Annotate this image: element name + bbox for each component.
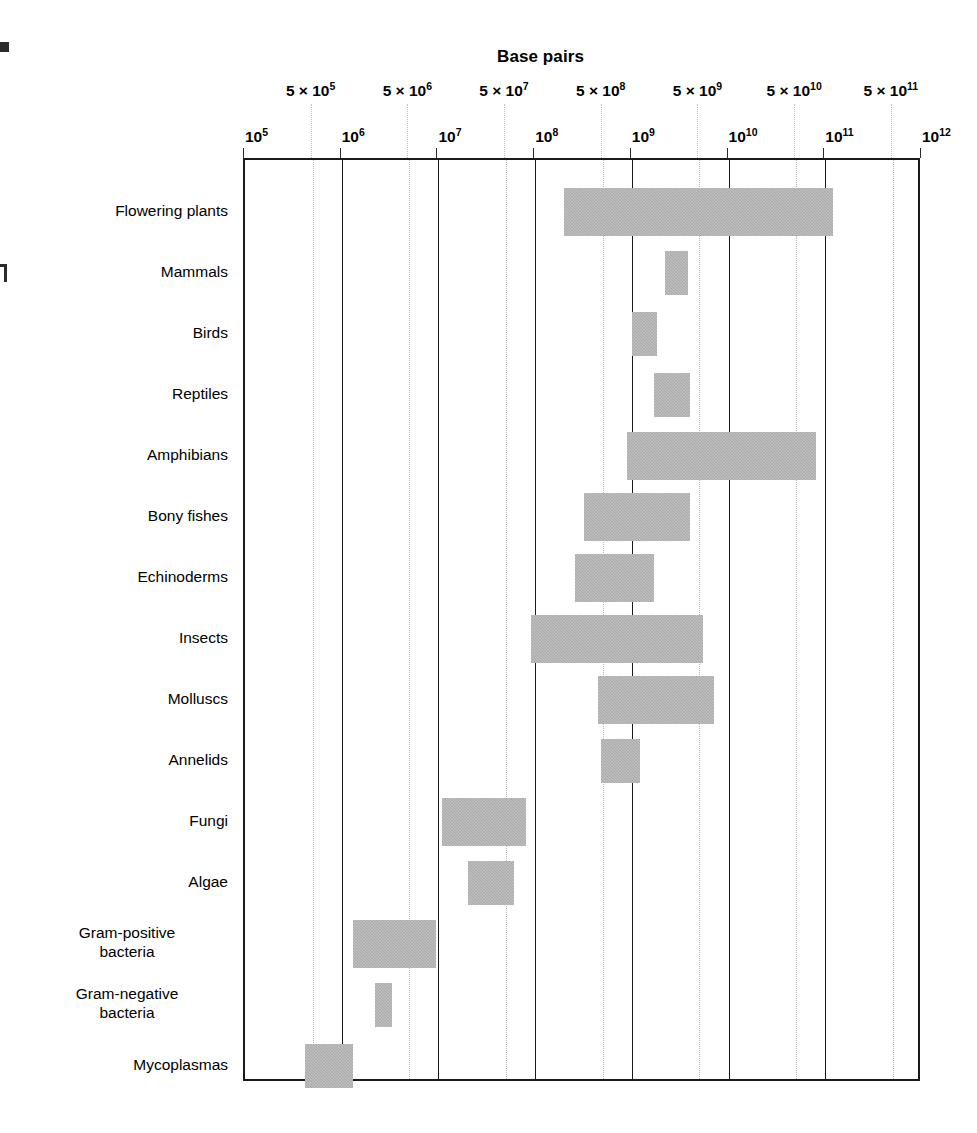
category-label-mycoplasmas: Mycoplasmas	[0, 1055, 228, 1074]
category-label-amphibians: Amphibians	[0, 445, 228, 464]
category-label-gram-positive-bacteria: Gram-positive bacteria	[2, 923, 252, 961]
x-tick-stub-1e9	[630, 148, 631, 158]
x-tick-stub-1e7	[436, 148, 437, 158]
x-tick-stub-1e8	[533, 148, 534, 158]
x-tick-label-1e6: 106	[342, 128, 365, 146]
gridline-half-decade-5e5	[313, 160, 314, 1079]
bar-algae	[468, 861, 514, 905]
x-tick-label-1e11: 1011	[825, 128, 853, 146]
x-tick-label-5e9: 5 × 109	[673, 82, 722, 100]
x-tick-label-5e6: 5 × 106	[383, 82, 432, 100]
category-label-echinoderms: Echinoderms	[0, 567, 228, 586]
category-label-annelids: Annelids	[0, 750, 228, 769]
x-tick-label-5e5: 5 × 105	[286, 82, 335, 100]
bar-amphibians	[627, 432, 815, 480]
x-tick-label-1e9: 109	[632, 128, 655, 146]
x-tick-label-5e7: 5 × 107	[479, 82, 528, 100]
category-label-fungi: Fungi	[0, 811, 228, 830]
gridline-decade-1e6	[342, 160, 343, 1079]
x-tick-stub-1e6	[340, 148, 341, 158]
x-tick-label-1e10: 1010	[729, 128, 758, 146]
category-label-molluscs: Molluscs	[0, 689, 228, 708]
category-label-mammals: Mammals	[0, 262, 228, 281]
chart-title: Base pairs	[0, 47, 977, 67]
bar-insects	[531, 615, 704, 663]
x-tick-label-1e7: 107	[438, 128, 461, 146]
x-tick-stub-5e5	[311, 104, 312, 158]
bar-fungi	[442, 798, 525, 846]
x-tick-stub-1e5	[243, 148, 244, 158]
x-tick-stub-1e12	[920, 148, 921, 158]
gridline-half-decade-5e11	[893, 160, 894, 1079]
x-tick-stub-5e11	[891, 104, 892, 158]
bar-echinoderms	[575, 554, 654, 602]
bar-mammals	[665, 251, 688, 295]
bar-molluscs	[598, 676, 713, 724]
x-tick-stub-5e6	[407, 104, 408, 158]
category-label-birds: Birds	[0, 323, 228, 342]
x-tick-label-1e8: 108	[535, 128, 558, 146]
x-tick-stub-1e10	[727, 148, 728, 158]
category-label-flowering-plants: Flowering plants	[0, 201, 228, 220]
x-tick-label-5e10: 5 × 1010	[767, 82, 822, 100]
category-label-bony-fishes: Bony fishes	[0, 506, 228, 525]
gridline-decade-1e11	[825, 160, 826, 1079]
x-tick-stub-5e7	[504, 104, 505, 158]
chart-plot-area	[243, 158, 920, 1081]
x-tick-label-5e11: 5 × 1011	[864, 82, 919, 100]
category-label-gram-negative-bacteria: Gram-negative bacteria	[2, 984, 252, 1022]
bar-birds	[632, 312, 657, 356]
x-tick-stub-5e8	[601, 104, 602, 158]
category-label-insects: Insects	[0, 628, 228, 647]
gridline-decade-1e7	[438, 160, 439, 1079]
bar-flowering-plants	[564, 188, 833, 236]
gridline-half-decade-5e10	[796, 160, 797, 1079]
bar-bony-fishes	[584, 493, 690, 541]
category-label-reptiles: Reptiles	[0, 384, 228, 403]
bar-reptiles	[654, 373, 690, 417]
gridline-half-decade-5e7	[506, 160, 507, 1079]
x-tick-label-1e12: 1012	[922, 128, 951, 146]
gridline-decade-1e10	[729, 160, 730, 1079]
bar-annelids	[601, 739, 639, 783]
x-tick-label-1e5: 105	[245, 128, 268, 146]
bar-gram-positive-bacteria	[353, 920, 437, 968]
bar-mycoplasmas	[305, 1044, 352, 1088]
category-label-algae: Algae	[0, 872, 228, 891]
x-tick-label-5e8: 5 × 108	[576, 82, 625, 100]
x-tick-stub-1e11	[823, 148, 824, 158]
x-tick-stub-5e9	[697, 104, 698, 158]
x-tick-stub-5e10	[794, 104, 795, 158]
bar-gram-negative-bacteria	[375, 983, 392, 1027]
